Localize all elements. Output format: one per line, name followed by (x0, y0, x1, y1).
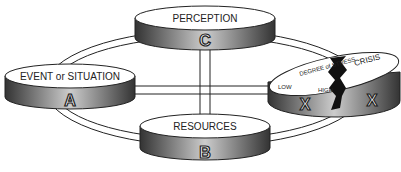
letter-b: B (199, 144, 211, 161)
node-event: EVENT or SITUATION A (5, 64, 135, 109)
node-perception: PERCEPTION C (135, 6, 275, 50)
resources-label: RESOURCES (173, 121, 237, 132)
letter-a: A (64, 92, 76, 109)
letter-c: C (199, 32, 211, 49)
abcx-diagram: PERCEPTION C EVENT or SITUATION A RESOUR… (0, 0, 401, 172)
high-label: HIGH (318, 87, 333, 93)
perception-label: PERCEPTION (172, 13, 237, 24)
letter-x-left: X (300, 96, 311, 113)
node-crisis: LOW DEGREE of STRESS HIGH CRISIS X X (266, 44, 401, 117)
node-resources: RESOURCES B (140, 114, 270, 161)
event-label: EVENT or SITUATION (20, 71, 120, 82)
low-label: LOW (278, 84, 292, 90)
letter-x-right: X (367, 92, 378, 109)
